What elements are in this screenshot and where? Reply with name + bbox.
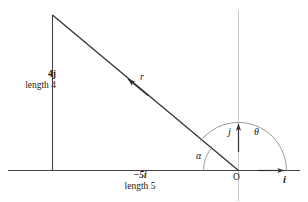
horizontal-component-text: −5i [133,170,146,180]
vertical-component-text: 4j [48,69,56,79]
origin-label: O [233,172,240,182]
angle-theta-arc [200,122,286,170]
modulus-label: r [140,72,144,83]
vertical-component-label: 4j [8,69,56,79]
angle-theta-label: θ [254,127,259,138]
unit-vector-j-label: j [228,126,231,137]
argand-diagram-figure: 4j length 4 −5i length 5 r α θ j i O [0,0,308,202]
horizontal-component-label: −5i [112,170,168,180]
hypotenuse-arrow [128,79,148,96]
angle-alpha-arc [203,148,211,170]
unit-vector-i-label: i [283,174,286,185]
horizontal-length-label: length 5 [110,181,170,191]
vertical-length-label: length 4 [2,80,56,90]
angle-alpha-label: α [196,151,201,162]
